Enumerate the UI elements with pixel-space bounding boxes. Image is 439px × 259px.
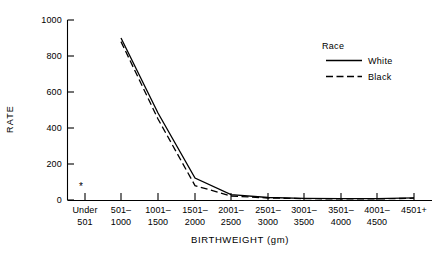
x-tick-label-4501-plus: 4501+ — [391, 205, 437, 217]
legend — [326, 61, 362, 77]
legend-label-white: White — [368, 56, 393, 66]
y-axis-ticks — [68, 20, 75, 200]
x-tick-label-line1: 4501+ — [391, 205, 437, 217]
legend-title: Race — [322, 41, 344, 51]
legend-label-black: Black — [368, 72, 392, 82]
x-axis-title: BIRTHWEIGHT (gm) — [160, 234, 320, 245]
x-tick-label-line2: 4500 — [354, 217, 400, 229]
